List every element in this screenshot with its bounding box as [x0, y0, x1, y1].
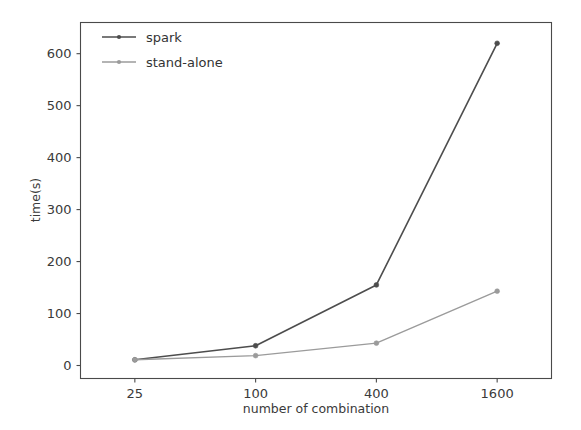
y-tick-label: 400: [47, 150, 72, 165]
legend-label-spark: spark: [146, 30, 182, 45]
x-tick-label: 1600: [481, 386, 514, 401]
data-point-marker: [132, 357, 137, 362]
y-tick-label: 100: [47, 306, 72, 321]
y-tick-label: 600: [47, 46, 72, 61]
chart-figure: 0100200300400500600 251004001600 time(s)…: [0, 0, 581, 430]
data-point-marker: [495, 41, 500, 46]
data-point-marker: [253, 353, 258, 358]
data-point-marker: [374, 283, 379, 288]
y-tick-label: 0: [63, 358, 71, 373]
x-tick-label: 400: [364, 386, 389, 401]
y-tick-label: 500: [47, 98, 72, 113]
data-point-marker: [374, 341, 379, 346]
data-point-marker: [253, 343, 258, 348]
y-tick-label: 200: [47, 254, 72, 269]
legend-marker-spark: [117, 35, 121, 39]
x-tick-label: 25: [127, 386, 144, 401]
y-tick-label: 300: [47, 202, 72, 217]
data-point-marker: [495, 289, 500, 294]
x-axis-label: number of combination: [243, 401, 389, 416]
y-axis-label: time(s): [28, 178, 43, 223]
figure-background: [0, 0, 581, 430]
legend-marker-standalone: [117, 60, 121, 64]
line-chart: 0100200300400500600 251004001600 time(s)…: [0, 0, 581, 430]
legend-label-standalone: stand-alone: [146, 55, 223, 70]
x-tick-label: 100: [243, 386, 268, 401]
